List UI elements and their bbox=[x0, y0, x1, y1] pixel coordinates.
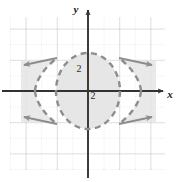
annotation-value-lower: 2 bbox=[91, 90, 96, 101]
y-axis-label: y bbox=[72, 3, 79, 15]
annotation-value-upper: 2 bbox=[77, 63, 82, 74]
graph-figure: y x 2 2 bbox=[0, 0, 178, 182]
graph-canvas: y x 2 2 bbox=[0, 0, 178, 182]
x-axis-label: x bbox=[166, 88, 173, 100]
